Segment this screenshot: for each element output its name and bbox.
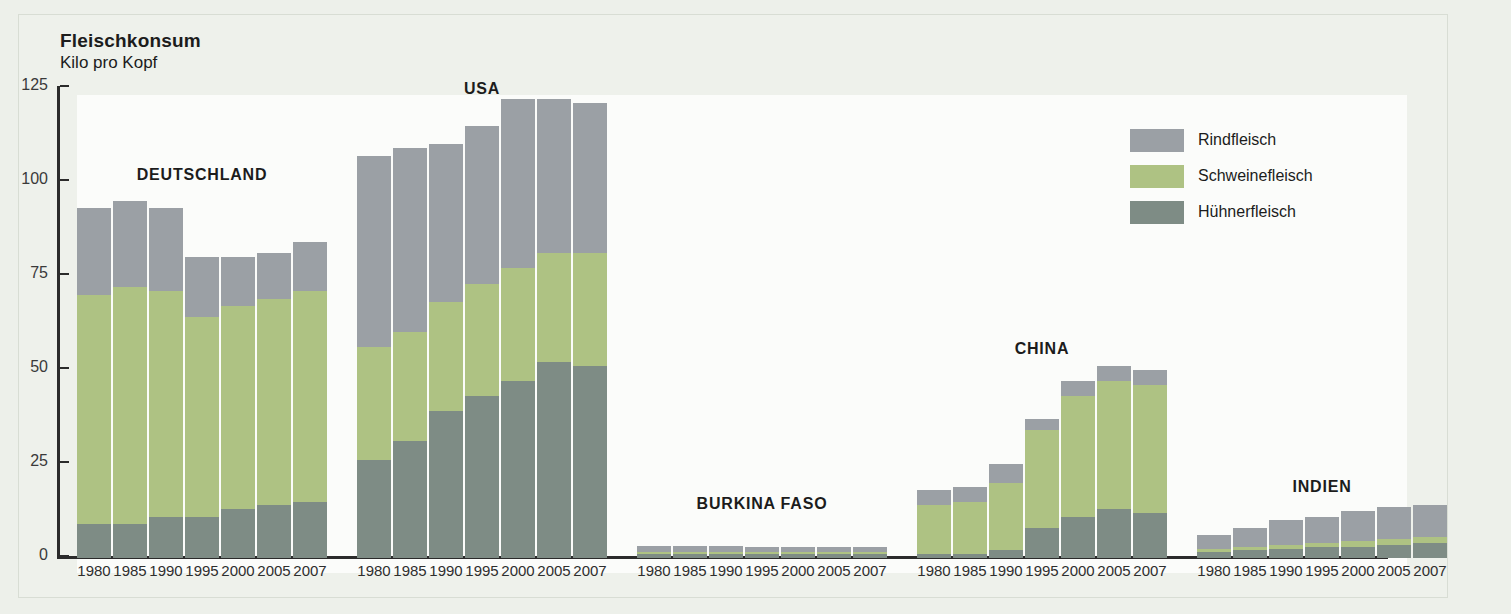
- legend: RindfleischSchweinefleischHühnerfleisch: [1130, 127, 1313, 235]
- x-axis-label: 2007: [292, 562, 328, 579]
- stacked-bar[interactable]: [817, 88, 851, 558]
- stacked-bar[interactable]: [1341, 88, 1375, 558]
- bar-segment-rindfleisch: [1061, 381, 1095, 396]
- bar-segment-rindfleisch: [501, 99, 535, 268]
- bar-segment-rindfleisch: [185, 257, 219, 317]
- stacked-bar[interactable]: [77, 88, 111, 558]
- stacked-bar[interactable]: [429, 88, 463, 558]
- x-axis-label: 2005: [816, 562, 852, 579]
- stacked-bar[interactable]: [293, 88, 327, 558]
- x-axis-label: 2007: [1132, 562, 1168, 579]
- x-axis-label: 2005: [536, 562, 572, 579]
- legend-item[interactable]: Hühnerfleisch: [1130, 199, 1313, 225]
- stacked-bar[interactable]: [853, 88, 887, 558]
- bar-segment-rindfleisch: [1341, 511, 1375, 541]
- x-axis-label: 1985: [1232, 562, 1268, 579]
- bar-segment-schweinefleisch: [573, 253, 607, 366]
- bar-group-burkina-faso: BURKINA FASO: [636, 86, 888, 558]
- stacked-bar[interactable]: [1097, 88, 1131, 558]
- stacked-bar[interactable]: [673, 88, 707, 558]
- bar-segment-hühnerfleisch: [917, 554, 951, 558]
- bar-segment-schweinefleisch: [465, 284, 499, 397]
- bar-segment-hühnerfleisch: [781, 554, 815, 558]
- stacked-bar[interactable]: [149, 88, 183, 558]
- stacked-bar[interactable]: [221, 88, 255, 558]
- bar-segment-rindfleisch: [357, 156, 391, 348]
- bar-segment-hühnerfleisch: [745, 554, 779, 558]
- stacked-bar[interactable]: [185, 88, 219, 558]
- stacked-bar[interactable]: [917, 88, 951, 558]
- bar-segment-schweinefleisch: [113, 287, 147, 524]
- stacked-bar[interactable]: [1061, 88, 1095, 558]
- y-axis-tick: [60, 367, 69, 369]
- x-axis-label: 2007: [1412, 562, 1448, 579]
- bar-segment-rindfleisch: [393, 148, 427, 332]
- bar-segment-hühnerfleisch: [673, 554, 707, 558]
- bar-segment-hühnerfleisch: [293, 502, 327, 558]
- bar-segment-rindfleisch: [149, 208, 183, 291]
- bar-segment-hühnerfleisch: [1061, 517, 1095, 558]
- y-axis-line: [57, 86, 60, 558]
- legend-item[interactable]: Schweinefleisch: [1130, 163, 1313, 189]
- stacked-bar[interactable]: [357, 88, 391, 558]
- bar-segment-hühnerfleisch: [185, 517, 219, 558]
- y-axis-tick: [60, 273, 69, 275]
- bars-container: [356, 88, 608, 558]
- y-axis-tick: [60, 179, 69, 181]
- bar-segment-rindfleisch: [917, 490, 951, 505]
- stacked-bar[interactable]: [537, 88, 571, 558]
- x-axis-label: 1985: [952, 562, 988, 579]
- stacked-bar[interactable]: [1025, 88, 1059, 558]
- x-axis-label: 2007: [852, 562, 888, 579]
- x-axis-label: 1980: [916, 562, 952, 579]
- stacked-bar[interactable]: [393, 88, 427, 558]
- x-axis-label: 2005: [256, 562, 292, 579]
- bar-segment-rindfleisch: [113, 201, 147, 287]
- y-axis-label: 0: [0, 546, 48, 564]
- legend-item[interactable]: Rindfleisch: [1130, 127, 1313, 153]
- bar-segment-rindfleisch: [1377, 507, 1411, 539]
- stacked-bar[interactable]: [573, 88, 607, 558]
- stacked-bar[interactable]: [989, 88, 1023, 558]
- bar-segment-rindfleisch: [221, 257, 255, 306]
- y-axis-label: 100: [0, 170, 48, 188]
- x-axis-label: 1995: [1304, 562, 1340, 579]
- stacked-bar[interactable]: [953, 88, 987, 558]
- stacked-bar[interactable]: [781, 88, 815, 558]
- x-axis-label: 1990: [988, 562, 1024, 579]
- x-axis-label: 2000: [1060, 562, 1096, 579]
- stacked-bar[interactable]: [637, 88, 671, 558]
- stacked-bar[interactable]: [113, 88, 147, 558]
- bar-segment-schweinefleisch: [501, 268, 535, 381]
- x-axis-label: 2007: [572, 562, 608, 579]
- x-axis-label: 2000: [220, 562, 256, 579]
- bar-segment-schweinefleisch: [1133, 385, 1167, 513]
- bar-segment-schweinefleisch: [917, 505, 951, 554]
- stacked-bar[interactable]: [257, 88, 291, 558]
- bar-segment-rindfleisch: [77, 208, 111, 294]
- bar-segment-rindfleisch: [537, 99, 571, 253]
- bars-container: [636, 88, 888, 558]
- stacked-bar[interactable]: [745, 88, 779, 558]
- x-axis-label: 1985: [672, 562, 708, 579]
- x-axis-label: 1990: [1268, 562, 1304, 579]
- bar-segment-hühnerfleisch: [1305, 547, 1339, 558]
- bar-segment-hühnerfleisch: [1197, 552, 1231, 558]
- infographic-frame: Fleischkonsum Kilo pro Kopf 025507510012…: [0, 0, 1511, 614]
- stacked-bar[interactable]: [709, 88, 743, 558]
- bar-segment-schweinefleisch: [293, 291, 327, 502]
- stacked-bar[interactable]: [1377, 88, 1411, 558]
- bar-segment-hühnerfleisch: [1377, 545, 1411, 558]
- bar-segment-hühnerfleisch: [989, 550, 1023, 558]
- bar-segment-hühnerfleisch: [113, 524, 147, 558]
- bar-segment-rindfleisch: [429, 144, 463, 302]
- x-axis-label: 1990: [708, 562, 744, 579]
- bar-segment-rindfleisch: [1413, 505, 1447, 537]
- bar-segment-schweinefleisch: [989, 483, 1023, 551]
- bar-segment-hühnerfleisch: [853, 554, 887, 558]
- stacked-bar[interactable]: [1413, 88, 1447, 558]
- stacked-bar[interactable]: [501, 88, 535, 558]
- stacked-bar[interactable]: [465, 88, 499, 558]
- x-axis-label: 1980: [76, 562, 112, 579]
- bar-segment-schweinefleisch: [77, 295, 111, 524]
